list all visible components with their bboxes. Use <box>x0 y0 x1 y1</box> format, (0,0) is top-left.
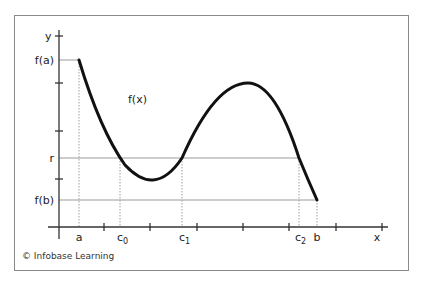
dotted-verticals <box>79 60 317 227</box>
fa-label: f(a) <box>35 54 54 67</box>
ivt-diagram: y f(a) r f(b) f(x) a c0 c1 c2 b x <box>0 0 422 286</box>
b-label: b <box>314 231 321 244</box>
copyright-credit: © Infobase Learning <box>22 251 114 261</box>
c2-label: c2 <box>295 231 306 246</box>
c0-label: c0 <box>117 231 128 246</box>
fb-label: f(b) <box>35 194 54 207</box>
y-axis-label: y <box>45 30 52 43</box>
a-label: a <box>76 231 83 244</box>
axes <box>48 30 388 239</box>
function-label: f(x) <box>128 93 147 106</box>
c1-label: c1 <box>179 231 190 246</box>
function-curve <box>79 60 317 200</box>
guide-lines <box>59 60 317 200</box>
r-label: r <box>49 152 54 165</box>
x-axis-label: x <box>374 231 381 244</box>
